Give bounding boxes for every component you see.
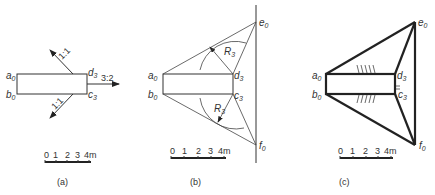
slope-hatch-bottom: [357, 95, 375, 103]
svg-text:4m: 4m: [218, 146, 231, 156]
svg-text:2: 2: [65, 150, 70, 160]
point-label-f0: f0: [419, 140, 426, 152]
edge-d3-e0: [395, 22, 415, 74]
caption-b: (b): [190, 177, 201, 187]
figure-b: R3 R3 a0 b0 d3 c3 e0 f0 0 1 2 3 4m (b): [148, 5, 269, 187]
point-label-d3: d3: [88, 67, 98, 79]
figure-a: 1:1 3:2 1:1 a0 b0 d3 c3 0 1 2 3 4m (a): [6, 45, 119, 187]
slope-hatch-top: [357, 65, 375, 73]
road-rectangle: [17, 74, 87, 94]
point-label-e0: e0: [418, 17, 428, 29]
point-label-c3: c3: [234, 90, 243, 102]
point-label-d3: d3: [234, 70, 244, 82]
svg-text:3: 3: [375, 146, 380, 156]
road-rectangle: [163, 74, 233, 94]
point-label-b0: b0: [148, 89, 158, 101]
caption-a: (a): [57, 177, 68, 187]
caption-c: (c): [339, 177, 350, 187]
svg-text:0: 0: [338, 146, 343, 156]
slope-label-right: 3:2: [101, 73, 114, 83]
svg-text:0: 0: [170, 146, 175, 156]
svg-text:2: 2: [363, 146, 368, 156]
svg-text:0: 0: [44, 150, 49, 160]
point-label-a0: a0: [312, 70, 322, 82]
svg-text:3: 3: [208, 146, 213, 156]
slope-label-bottom: 1:1: [49, 95, 65, 111]
scale-bar-c: 0 1 2 3 4m: [338, 146, 397, 159]
point-label-e0: e0: [259, 17, 269, 29]
point-label-b0: b0: [312, 89, 322, 101]
envelope-top: [163, 22, 256, 74]
edge-c3-f0: [233, 94, 256, 145]
radius-label-lower: R3: [214, 103, 225, 115]
edge-c3-f0: [395, 94, 415, 145]
scale-bar-a: 0 1 2 3 4m: [44, 150, 97, 163]
arc-upper: [200, 41, 246, 70]
svg-text:1: 1: [53, 150, 58, 160]
point-label-a0: a0: [148, 70, 158, 82]
point-label-d3: d3: [397, 70, 407, 82]
svg-text:4m: 4m: [84, 150, 97, 160]
edge-d3-e0: [233, 22, 256, 74]
figure-c: a0 b0 d3 c3 e0 f0 0 1 2 3 4m (c): [312, 17, 428, 187]
point-label-c3: c3: [88, 89, 97, 101]
svg-text:1: 1: [182, 146, 187, 156]
envelope-bottom: [326, 94, 415, 145]
diagram-canvas: 1:1 3:2 1:1 a0 b0 d3 c3 0 1 2 3 4m (a): [0, 0, 435, 195]
radius-label-upper: R3: [224, 46, 235, 58]
point-label-f0: f0: [259, 140, 266, 152]
envelope-top: [326, 22, 415, 74]
point-label-b0: b0: [6, 89, 16, 101]
svg-text:4m: 4m: [384, 146, 397, 156]
svg-text:2: 2: [196, 146, 201, 156]
point-label-c3: c3: [398, 89, 407, 101]
svg-text:3: 3: [75, 150, 80, 160]
road-rectangle: [326, 74, 395, 94]
svg-text:1: 1: [350, 146, 355, 156]
scale-bar-b: 0 1 2 3 4m: [170, 146, 231, 159]
point-label-a0: a0: [6, 70, 16, 82]
